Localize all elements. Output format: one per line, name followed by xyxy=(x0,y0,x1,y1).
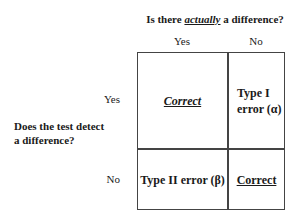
row-header-no: No xyxy=(90,173,120,185)
column-question-title: Is there actually a difference? xyxy=(100,13,303,25)
row-question-line2: a difference? xyxy=(14,133,124,147)
cell-yes-no-type1-error: Type I error (α) xyxy=(229,53,284,148)
row-header-yes: Yes xyxy=(90,93,120,105)
row-question-line1: Does the test detect xyxy=(14,119,124,133)
title-emphasis: actually xyxy=(184,13,220,25)
column-header-no: No xyxy=(236,35,276,47)
cell-text: Correct xyxy=(164,93,201,109)
cell-no-yes-type2-error: Type II error (β) xyxy=(138,150,227,209)
cell-text-line1: Type I xyxy=(237,85,282,101)
cell-no-no-correct: Correct xyxy=(229,150,284,209)
column-header-yes: Yes xyxy=(162,35,202,47)
row-question-label: Does the test detect a difference? xyxy=(14,119,124,147)
cell-text-line2: error (α) xyxy=(237,101,282,117)
cell-text: Type II error (β) xyxy=(140,172,225,188)
cell-yes-yes-correct: Correct xyxy=(138,53,227,148)
title-suffix: a difference? xyxy=(221,13,284,25)
cell-text: Correct xyxy=(237,172,277,188)
title-prefix: Is there xyxy=(146,13,184,25)
